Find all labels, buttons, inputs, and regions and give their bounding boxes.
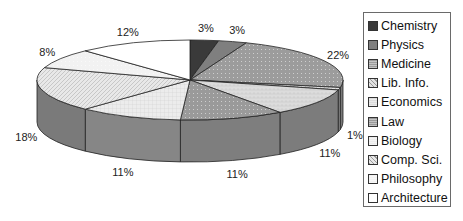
legend-swatch-icon (368, 21, 378, 31)
legend-swatch-icon (368, 97, 378, 107)
legend-item-medicine: Medicine (368, 54, 450, 73)
slice-label: 8% (39, 46, 55, 58)
pie-tops (37, 40, 343, 120)
slice-label: 11% (319, 147, 340, 159)
legend-item-economics: Economics (368, 93, 450, 112)
slice-label: 12% (117, 26, 139, 38)
legend-item-lib-info: Lib. Info. (368, 74, 450, 93)
legend-swatch-icon (368, 155, 378, 165)
legend-item-biology: Biology (368, 131, 450, 150)
legend-swatch-icon (368, 78, 378, 88)
legend-item-comp-sci: Comp. Sci. (368, 150, 450, 169)
slice-label: 3% (229, 24, 245, 36)
slice-label: 1% (347, 129, 363, 141)
legend-swatch-icon (368, 174, 378, 184)
slice-label: 11% (112, 166, 133, 178)
slice-label: 22% (327, 49, 349, 61)
slice-label: 11% (227, 168, 248, 180)
legend-swatch-icon (368, 117, 378, 127)
legend-item-law: Law (368, 112, 450, 131)
chart-legend: Chemistry Physics Medicine Lib. Info. Ec… (363, 12, 451, 207)
legend-item-architecture: Architecture (368, 189, 450, 208)
legend-item-chemistry: Chemistry (368, 16, 450, 35)
legend-swatch-icon (368, 136, 378, 146)
slice-label: 18% (15, 131, 37, 143)
legend-swatch-icon (368, 193, 378, 203)
legend-item-philosophy: Philosophy (368, 170, 450, 189)
legend-swatch-icon (368, 40, 378, 50)
legend-item-physics: Physics (368, 35, 450, 54)
legend-swatch-icon (368, 59, 378, 69)
slice-label: 3% (198, 22, 214, 34)
